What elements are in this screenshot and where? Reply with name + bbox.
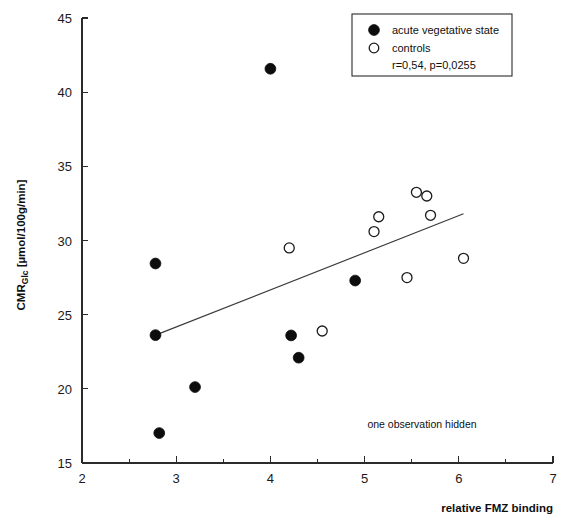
data-point <box>150 330 161 341</box>
y-axis-title-main: CMR <box>15 284 27 311</box>
data-point <box>411 187 421 197</box>
data-point <box>265 63 276 74</box>
x-axis-tick-labels: 234567 <box>78 471 556 486</box>
y-tick-label: 15 <box>58 456 72 471</box>
y-axis-title-units: [µmol/100g/min] <box>15 179 27 270</box>
data-point <box>426 210 436 220</box>
data-point <box>369 227 379 237</box>
y-tick-label: 40 <box>58 85 72 100</box>
x-tick-label: 2 <box>78 471 85 486</box>
data-point <box>293 352 304 363</box>
y-tick-label: 20 <box>58 382 72 397</box>
data-point <box>150 258 161 269</box>
data-point <box>422 191 432 201</box>
x-tick-label: 4 <box>267 471 274 486</box>
y-axis-title-subscript: Glc <box>20 270 30 284</box>
data-point <box>284 243 294 253</box>
controls-data-points <box>284 187 468 336</box>
plot-axes <box>82 18 553 463</box>
data-point <box>286 330 297 341</box>
legend-statistics: r=0,54, p=0,0255 <box>392 59 476 71</box>
scatter-plot-figure: 15202530354045 234567 CMRGlc [µmol/100g/… <box>0 0 567 530</box>
y-tick-label: 30 <box>58 234 72 249</box>
legend-label-acute-vegetative-state: acute vegetative state <box>392 24 499 36</box>
x-axis-title: relative FMZ binding <box>441 502 553 514</box>
data-point <box>190 382 201 393</box>
data-point <box>350 275 361 286</box>
legend-marker-filled-circle <box>369 25 380 36</box>
y-axis-title: CMRGlc [µmol/100g/min] <box>15 179 30 310</box>
legend: acute vegetative state controls r=0,54, … <box>352 14 512 76</box>
x-axis-minor-ticks <box>129 459 506 463</box>
svg-text:CMRGlc [µmol/100g/min]: CMRGlc [µmol/100g/min] <box>15 179 30 310</box>
y-tick-label: 45 <box>58 11 72 26</box>
legend-label-controls: controls <box>392 42 431 54</box>
data-point <box>154 428 165 439</box>
x-tick-label: 5 <box>361 471 368 486</box>
data-point <box>317 326 327 336</box>
y-axis-tick-labels: 15202530354045 <box>58 11 72 471</box>
y-tick-label: 35 <box>58 159 72 174</box>
y-tick-label: 25 <box>58 308 72 323</box>
acute-vegetative-state-data-points <box>150 63 361 438</box>
chart-canvas: 15202530354045 234567 CMRGlc [µmol/100g/… <box>0 0 567 530</box>
data-point <box>459 253 469 263</box>
regression-line <box>155 214 463 335</box>
x-tick-label: 6 <box>455 471 462 486</box>
x-tick-label: 3 <box>173 471 180 486</box>
data-point <box>402 273 412 283</box>
hidden-observation-note: one observation hidden <box>367 418 476 430</box>
x-tick-label: 7 <box>549 471 556 486</box>
data-point <box>374 212 384 222</box>
legend-marker-open-circle <box>369 43 379 53</box>
y-axis-ticks <box>82 18 88 463</box>
